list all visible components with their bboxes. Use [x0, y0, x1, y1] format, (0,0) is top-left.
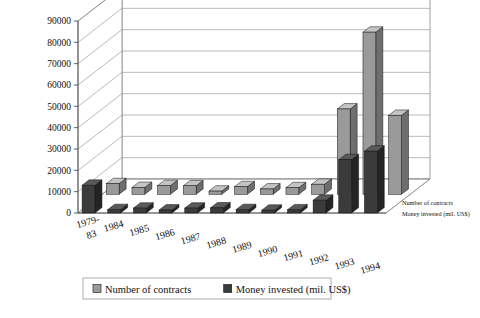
legend-swatch — [224, 285, 232, 293]
svg-text:1992: 1992 — [308, 251, 330, 267]
depth-axis-label: Money invested (mil. US$) — [402, 210, 470, 218]
svg-text:1991: 1991 — [282, 247, 304, 263]
svg-text:1994: 1994 — [359, 260, 381, 276]
legend-item-money[interactable]: Money invested (mil. US$) — [224, 284, 351, 296]
x-axis-tick-label: 1988 — [205, 235, 227, 251]
y-axis-tick-label: 90000 — [47, 16, 71, 26]
y-axis-tick-label: 50000 — [47, 102, 71, 112]
y-axis-tick-label: 30000 — [47, 144, 71, 154]
x-axis-tick-label: 1991 — [282, 247, 304, 263]
x-axis-tick-label: 1986 — [154, 226, 176, 242]
y-axis-tick-label: 0 — [66, 208, 71, 218]
y-axis-tick-label: 60000 — [47, 80, 71, 90]
chart-container: 0100002000030000400005000060000700008000… — [0, 0, 480, 318]
x-axis-tick-label: 1994 — [359, 260, 381, 276]
x-axis-tick-label: 1979-83 — [75, 213, 104, 243]
bar-chart-3d: 0100002000030000400005000060000700008000… — [0, 0, 480, 318]
svg-text:1984: 1984 — [102, 218, 124, 234]
y-axis-tick-label: 20000 — [47, 166, 71, 176]
y-axis-tick-label: 10000 — [47, 187, 71, 197]
bar-money-1979-83 — [82, 180, 102, 213]
bar-money-1994 — [364, 146, 384, 213]
svg-text:1985: 1985 — [128, 222, 150, 238]
x-axis-tick-label: 1985 — [128, 222, 150, 238]
x-axis-tick-label: 1993 — [333, 256, 355, 272]
svg-text:1988: 1988 — [205, 235, 227, 251]
legend-item-contracts[interactable]: Number of contracts — [93, 284, 191, 295]
y-axis-tick-label: 80000 — [47, 38, 71, 48]
x-axis-labels: 1979-83198419851986198719881989199019911… — [75, 213, 381, 276]
x-axis-tick-label: 1987 — [179, 230, 201, 246]
x-axis-tick-label: 1992 — [308, 251, 330, 267]
x-axis-tick-label: 1989 — [231, 239, 253, 255]
bar-money-1993 — [339, 154, 359, 213]
chart-legend: Number of contractsMoney invested (mil. … — [83, 278, 351, 299]
bar-contracts-1994 — [389, 110, 409, 194]
svg-text:1986: 1986 — [154, 226, 176, 242]
legend-label: Money invested (mil. US$) — [236, 284, 351, 296]
svg-text:1993: 1993 — [333, 256, 355, 272]
x-axis-tick-label: 1990 — [256, 243, 278, 259]
svg-text:1979-: 1979- — [75, 213, 100, 230]
y-axis-tick-label: 70000 — [47, 59, 71, 69]
svg-text:1990: 1990 — [256, 243, 278, 259]
depth-axis-label: Number of contracts — [402, 199, 453, 206]
y-axis-tick-label: 40000 — [47, 123, 71, 133]
legend-swatch — [93, 285, 101, 293]
svg-text:1989: 1989 — [231, 239, 253, 255]
svg-text:1987: 1987 — [179, 230, 201, 246]
legend-label: Number of contracts — [105, 284, 191, 295]
x-axis-tick-label: 1984 — [102, 218, 124, 234]
svg-text:83: 83 — [85, 227, 98, 240]
